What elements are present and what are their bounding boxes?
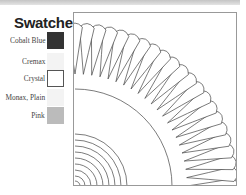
swatch-label: Monax, Plain [5,93,45,102]
swatch-pink[interactable]: Pink [0,107,64,125]
swatch-color-box[interactable] [47,70,64,87]
inner-ring [75,181,80,186]
swatch-color-box[interactable] [47,32,64,49]
top-bar [0,0,240,5]
swatch-label: Cobalt Blue [10,36,45,45]
swatch-label: Cremax [22,57,45,66]
swatch-color-box[interactable] [47,89,64,106]
swatch-monax-plain[interactable]: Monax, Plain [0,89,64,107]
inner-ring [75,170,91,186]
plate-pattern-view [73,12,237,186]
swatch-cremax[interactable]: Cremax [0,53,64,71]
plate-drawing [74,13,237,186]
swatch-color-box[interactable] [47,107,64,124]
swatches-title: Swatches [14,14,81,31]
inner-ring [75,134,127,186]
swatch-color-box[interactable] [47,53,64,70]
swatch-label: Pink [32,111,45,120]
swatch-cobalt-blue[interactable]: Cobalt Blue [0,32,64,50]
inner-ring [75,152,109,186]
swatch-label: Crystal [24,74,45,83]
swatch-crystal[interactable]: Crystal [0,70,64,88]
outer-ring [75,89,172,186]
